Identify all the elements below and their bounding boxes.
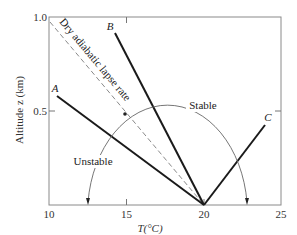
x-tick-15: 15 [121, 208, 133, 220]
stability-arc [88, 105, 247, 202]
unstable-label: Unstable [73, 155, 112, 167]
dry-adiabatic-label: Dry adiabatic lapse rate [57, 16, 133, 104]
x-tick-10: 10 [44, 208, 56, 220]
curve-c-label: C [264, 111, 272, 123]
dry-adiabatic-line [50, 22, 204, 205]
x-axis-title: T(°C) [137, 222, 163, 235]
unstable-arrow-icon [86, 198, 90, 205]
curve-a-line [57, 96, 204, 205]
dry-adiabatic-marker-icon [123, 112, 127, 116]
lapse-rate-chart: 10 15 20 25 0.5 1.0 T(°C) Altitude z (km… [0, 0, 297, 235]
y-axis-title: Altitude z (km) [13, 76, 26, 144]
x-tick-20: 20 [199, 208, 211, 220]
curve-b-label: B [107, 20, 114, 32]
stable-arrow-icon [245, 198, 249, 205]
y-tick-1-0: 1.0 [33, 11, 47, 23]
curve-c-line [204, 125, 265, 205]
stable-label: Stable [189, 99, 217, 111]
curve-a-label: A [51, 82, 59, 94]
y-tick-0-5: 0.5 [33, 105, 47, 117]
x-tick-25: 25 [276, 208, 288, 220]
